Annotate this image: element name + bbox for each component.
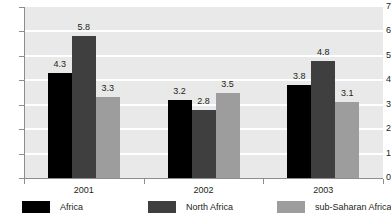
bar-value-label: 4.3 bbox=[42, 60, 78, 69]
legend-swatch bbox=[22, 201, 50, 213]
bar bbox=[96, 97, 120, 178]
bar bbox=[168, 100, 192, 178]
bar-value-label: 3.8 bbox=[281, 72, 317, 81]
bar-chart: 01234567 200120022003 4.35.83.33.22.83.5… bbox=[0, 0, 391, 222]
y-axis-tick bbox=[19, 105, 25, 106]
bar bbox=[48, 73, 72, 178]
y-axis-label: 4 bbox=[374, 75, 391, 84]
bar-value-label: 4.8 bbox=[305, 48, 341, 57]
y-axis-label: 2 bbox=[374, 124, 391, 133]
x-axis-tick bbox=[24, 179, 25, 184]
bar-value-label: 3.5 bbox=[210, 80, 246, 89]
legend-label: Africa bbox=[60, 202, 83, 213]
legend-swatch bbox=[148, 201, 176, 213]
legend-label: North Africa bbox=[186, 202, 233, 213]
legend-item[interactable]: sub-Saharan Africa bbox=[277, 200, 391, 214]
y-axis-tick bbox=[19, 56, 25, 57]
bar bbox=[72, 36, 96, 178]
legend-item[interactable]: Africa bbox=[22, 200, 83, 214]
legend-label: sub-Saharan Africa bbox=[315, 202, 391, 213]
y-axis-tick bbox=[19, 80, 25, 81]
y-axis-label: 6 bbox=[374, 26, 391, 35]
y-axis-label: 5 bbox=[374, 51, 391, 60]
bar-value-label: 3.1 bbox=[329, 89, 365, 98]
bar bbox=[335, 102, 359, 178]
y-axis-tick bbox=[19, 129, 25, 130]
bar-value-label: 3.3 bbox=[90, 84, 126, 93]
bar-value-label: 2.8 bbox=[186, 97, 222, 106]
x-axis-label: 2003 bbox=[263, 185, 383, 196]
legend: AfricaNorth Africasub-Saharan Africa bbox=[0, 200, 391, 218]
bar bbox=[287, 85, 311, 178]
y-axis-tick bbox=[19, 154, 25, 155]
y-axis-tick bbox=[19, 7, 25, 8]
x-axis-tick bbox=[144, 179, 145, 184]
y-axis-tick bbox=[19, 31, 25, 32]
legend-swatch bbox=[277, 201, 305, 213]
y-axis-label: 7 bbox=[374, 2, 391, 11]
x-axis-tick bbox=[263, 179, 264, 184]
x-axis-label: 2002 bbox=[144, 185, 264, 196]
legend-item[interactable]: North Africa bbox=[148, 200, 233, 214]
y-axis-label: 1 bbox=[374, 149, 391, 158]
x-axis-line bbox=[24, 178, 383, 179]
bar bbox=[192, 110, 216, 178]
bar-value-label: 5.8 bbox=[66, 23, 102, 32]
y-axis-label: 3 bbox=[374, 100, 391, 109]
x-axis-label: 2001 bbox=[24, 185, 144, 196]
bar-value-label: 3.2 bbox=[162, 87, 198, 96]
x-axis-tick bbox=[383, 179, 384, 184]
